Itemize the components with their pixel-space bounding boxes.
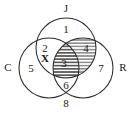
venn-diagram-svg: J C R 1 2 3 4 5 6 7 8 X bbox=[0, 0, 131, 122]
region-label-5: 5 bbox=[28, 62, 34, 74]
region-label-8: 8 bbox=[63, 97, 69, 109]
set-label-j: J bbox=[64, 2, 69, 14]
set-label-c: C bbox=[4, 61, 11, 73]
region-label-6: 6 bbox=[63, 79, 69, 91]
point-marker-x: X bbox=[41, 52, 49, 64]
set-label-r: R bbox=[119, 61, 127, 73]
venn-diagram-figure: J C R 1 2 3 4 5 6 7 8 X bbox=[0, 0, 131, 122]
region-label-1: 1 bbox=[63, 23, 69, 35]
region-label-7: 7 bbox=[98, 62, 104, 74]
region-label-3: 3 bbox=[61, 57, 67, 69]
region-label-4: 4 bbox=[83, 42, 89, 54]
